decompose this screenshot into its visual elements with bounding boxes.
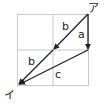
vector-b-2 [19, 50, 53, 84]
vector-label-b-2: b [28, 55, 35, 68]
point-label-end: イ [4, 89, 15, 102]
vector-diagram: ア イ a b b c [0, 0, 108, 106]
point-label-start: ア [88, 2, 99, 15]
vector-label-c: c [55, 68, 61, 81]
vector-label-b-1: b [62, 20, 69, 33]
vector-label-a: a [78, 28, 85, 41]
